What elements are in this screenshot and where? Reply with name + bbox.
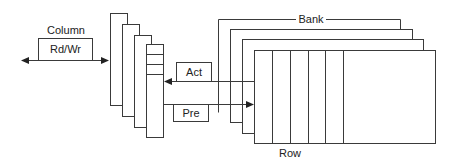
column-rdwr-group: Column Rd/Wr bbox=[22, 24, 108, 61]
pre-label: Pre bbox=[182, 107, 199, 119]
row-label: Row bbox=[279, 147, 301, 159]
rdwr-label: Rd/Wr bbox=[50, 43, 81, 55]
bank-label: Bank bbox=[298, 13, 324, 25]
column-plates bbox=[111, 14, 164, 138]
act-label: Act bbox=[186, 66, 202, 78]
bank-plate-4-front bbox=[255, 51, 436, 144]
column-label: Column bbox=[47, 24, 85, 36]
column-plate-4 bbox=[147, 45, 164, 138]
bank-plates: Bank Row bbox=[219, 13, 436, 159]
dram-diagram: Column Rd/Wr Bank Row Act bbox=[0, 0, 452, 164]
